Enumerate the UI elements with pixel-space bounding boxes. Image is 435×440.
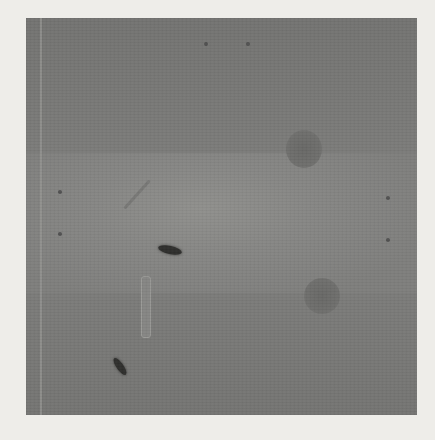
photograph	[26, 18, 417, 415]
grain-texture	[26, 18, 417, 415]
page	[0, 0, 435, 440]
